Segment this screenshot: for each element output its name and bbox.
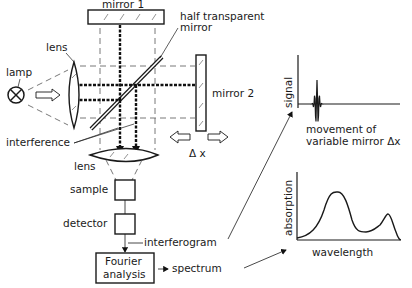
half-transparent-label-2: mirror bbox=[180, 21, 213, 33]
fourier-label-2: analysis bbox=[103, 268, 146, 280]
focus-dash-left bbox=[106, 160, 116, 180]
mirror-1 bbox=[88, 10, 164, 24]
spectrum-trace bbox=[297, 192, 401, 240]
wavelength-axis-label: wavelength bbox=[312, 246, 373, 258]
ftir-diagram: mirror 1 mirror 2 half transparent mirro… bbox=[0, 0, 412, 288]
lens-bottom-label: lens bbox=[74, 160, 96, 172]
interferogram-plot bbox=[298, 55, 400, 121]
lamp-icon bbox=[8, 87, 24, 103]
detector-box bbox=[115, 214, 135, 234]
sample-label: sample bbox=[70, 183, 108, 195]
interferogram-xlabel-1: movement of bbox=[306, 123, 377, 135]
lens-bottom bbox=[90, 149, 158, 162]
spectrum-plot bbox=[297, 172, 401, 240]
light-arrow-icon bbox=[36, 89, 60, 101]
lens-top-label: lens bbox=[46, 41, 68, 53]
lens-top bbox=[69, 62, 79, 128]
arrow-to-spectrum bbox=[244, 250, 286, 268]
absorption-axis-label: absorption bbox=[282, 180, 294, 236]
interferogram-trace bbox=[298, 80, 400, 121]
mirror-2-label: mirror 2 bbox=[212, 87, 254, 99]
mirror-2 bbox=[196, 55, 206, 131]
interferogram-label: interferogram bbox=[144, 236, 217, 248]
focus-dash-right bbox=[132, 160, 142, 180]
mirror-1-label: mirror 1 bbox=[102, 0, 144, 10]
delta-x-label: Δ x bbox=[189, 147, 206, 159]
spectrum-label: spectrum bbox=[172, 262, 222, 274]
lamp-leader bbox=[18, 79, 20, 87]
half-transparent-leader bbox=[160, 28, 178, 58]
fourier-label-1: Fourier bbox=[105, 255, 142, 267]
interferogram-xlabel-2: variable mirror Δx bbox=[306, 135, 401, 147]
detector-label: detector bbox=[63, 217, 108, 229]
interference-label: interference bbox=[6, 136, 70, 148]
lens-top-leader bbox=[66, 53, 74, 62]
sample-box bbox=[115, 180, 135, 200]
lamp-label: lamp bbox=[6, 66, 33, 78]
signal-axis-label: signal bbox=[282, 77, 294, 108]
mirror-movement-arrows bbox=[170, 131, 228, 143]
interference-leader-2 bbox=[74, 124, 134, 143]
